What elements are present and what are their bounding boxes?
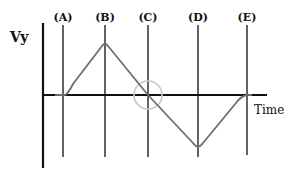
marker-label-e: (E) — [238, 11, 257, 24]
x-axis-label: Time — [254, 103, 284, 117]
marker-lines — [63, 25, 247, 157]
marker-label-a: (A) — [54, 11, 73, 24]
marker-label-b: (B) — [95, 11, 115, 24]
marker-label-c: (C) — [138, 11, 157, 24]
vy-time-graph: (A) (B) (C) (D) (E) Vy Time — [0, 0, 294, 177]
marker-label-d: (D) — [188, 11, 208, 24]
y-axis-label: Vy — [9, 29, 29, 45]
